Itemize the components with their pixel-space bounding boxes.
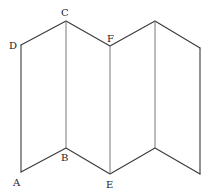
label-A: A [12, 177, 21, 188]
label-E: E [106, 179, 113, 190]
label-F: F [107, 33, 114, 44]
folded-screen-diagram: A B C D E F [0, 0, 210, 193]
label-B: B [61, 152, 68, 163]
label-C: C [61, 7, 69, 18]
label-D: D [9, 40, 17, 51]
bottom-edge [21, 148, 200, 174]
